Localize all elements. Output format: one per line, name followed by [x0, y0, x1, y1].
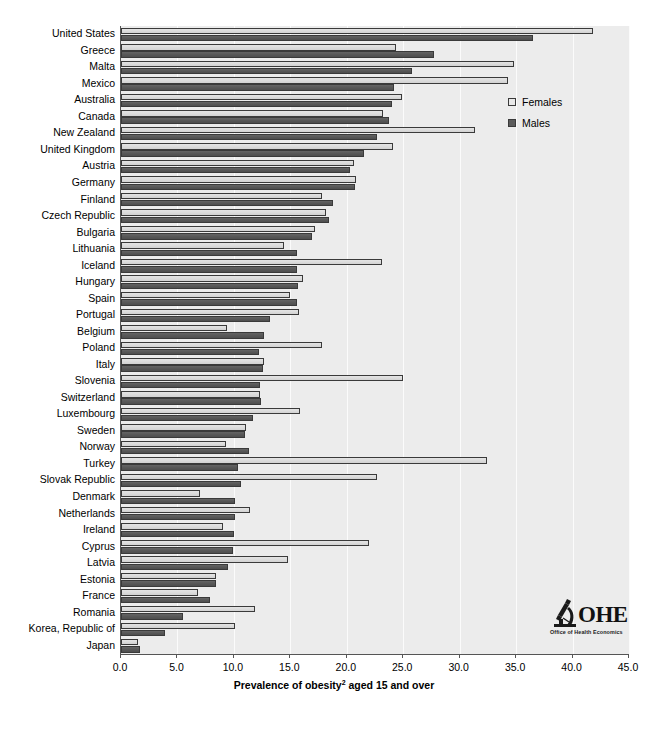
bar-male: [121, 481, 241, 487]
category-label: Greece: [0, 45, 115, 56]
x-tick-label: 0.0: [113, 661, 128, 673]
bar-female: [121, 342, 322, 348]
bar-male: [121, 101, 392, 107]
chart-legend: Females Males: [508, 96, 562, 138]
bar-female: [121, 639, 138, 645]
x-tick-label: 15.0: [279, 661, 299, 673]
category-label: Czech Republic: [0, 210, 115, 221]
category-label: Lithuania: [0, 243, 115, 254]
category-label: United States: [0, 28, 115, 39]
bar-female: [121, 94, 402, 100]
category-label: Slovenia: [0, 375, 115, 386]
bar-female: [121, 193, 322, 199]
gridline: [629, 26, 630, 654]
x-tick-mark: [459, 654, 460, 658]
category-label: Estonia: [0, 574, 115, 585]
bar-row: [121, 571, 629, 588]
bar-female: [121, 110, 383, 116]
bar-row: [121, 522, 629, 539]
category-label: Italy: [0, 359, 115, 370]
bar-female: [121, 259, 382, 265]
bar-female: [121, 523, 223, 529]
category-label: Slovak Republic: [0, 474, 115, 485]
category-label: Spain: [0, 293, 115, 304]
bar-male: [121, 514, 235, 520]
bar-row: [121, 505, 629, 522]
bar-female: [121, 28, 593, 34]
bar-male: [121, 448, 249, 454]
category-label: Bulgaria: [0, 227, 115, 238]
bar-male: [121, 597, 210, 603]
bar-female: [121, 61, 514, 67]
x-tick-label: 30.0: [448, 661, 468, 673]
bar-female: [121, 292, 290, 298]
category-label: New Zealand: [0, 127, 115, 138]
x-axis-title: Prevalence of obesity2 aged 15 and over: [0, 678, 668, 691]
bar-female: [121, 375, 403, 381]
x-tick-mark: [628, 654, 629, 658]
category-label: Korea, Republic of: [0, 623, 115, 634]
bar-male: [121, 68, 412, 74]
legend-item-males: Males: [508, 117, 562, 129]
bar-male: [121, 613, 183, 619]
category-label: Cyprus: [0, 541, 115, 552]
category-label: Germany: [0, 177, 115, 188]
bar-male: [121, 266, 297, 272]
category-label: Netherlands: [0, 508, 115, 519]
bar-female: [121, 242, 284, 248]
bar-female: [121, 160, 354, 166]
bar-male: [121, 200, 333, 206]
obesity-prevalence-bar-chart: United StatesGreeceMaltaMexicoAustraliaC…: [0, 0, 668, 738]
bar-row: [121, 423, 629, 440]
bar-row: [121, 191, 629, 208]
bar-male: [121, 365, 263, 371]
bar-male: [121, 398, 261, 404]
x-tick-label: 25.0: [392, 661, 412, 673]
category-label: Romania: [0, 607, 115, 618]
bar-female: [121, 474, 377, 480]
bar-male: [121, 217, 329, 223]
bar-male: [121, 283, 298, 289]
bar-female: [121, 408, 300, 414]
bar-female: [121, 309, 299, 315]
x-tick-label: 45.0: [618, 661, 638, 673]
bar-row: [121, 538, 629, 555]
category-label: Mexico: [0, 78, 115, 89]
x-tick-label: 5.0: [169, 661, 184, 673]
bar-row: [121, 390, 629, 407]
bar-male: [121, 35, 533, 41]
ohe-tagline: Office of Health Economics: [550, 629, 623, 635]
bar-female: [121, 275, 303, 281]
bar-row: [121, 208, 629, 225]
bar-female: [121, 127, 475, 133]
x-tick-mark: [515, 654, 516, 658]
bar-male: [121, 316, 270, 322]
category-label: Switzerland: [0, 392, 115, 403]
x-tick-mark: [346, 654, 347, 658]
bar-row: [121, 472, 629, 489]
bar-male: [121, 51, 434, 57]
bar-male: [121, 167, 350, 173]
bar-male: [121, 250, 297, 256]
x-tick-label: 40.0: [561, 661, 581, 673]
category-label: Belgium: [0, 326, 115, 337]
category-label: Iceland: [0, 260, 115, 271]
bar-male: [121, 547, 233, 553]
bar-row: [121, 59, 629, 76]
bar-row: [121, 257, 629, 274]
legend-label-females: Females: [522, 96, 562, 108]
bar-male: [121, 415, 253, 421]
bar-row: [121, 43, 629, 60]
bar-row: [121, 456, 629, 473]
bar-row: [121, 439, 629, 456]
bar-male: [121, 498, 235, 504]
category-label: France: [0, 590, 115, 601]
bar-male: [121, 464, 238, 470]
category-label: United Kingdom: [0, 144, 115, 155]
legend-item-females: Females: [508, 96, 562, 108]
bar-male: [121, 117, 389, 123]
bar-row: [121, 373, 629, 390]
bar-male: [121, 564, 228, 570]
category-label: Austria: [0, 160, 115, 171]
category-label: Latvia: [0, 557, 115, 568]
